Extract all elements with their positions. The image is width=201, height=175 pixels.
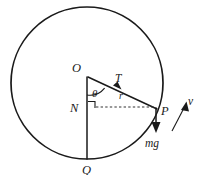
right-angle-marker — [88, 102, 95, 109]
label-center-O: O — [72, 61, 81, 75]
weight-arrowhead — [152, 122, 161, 133]
velocity-shaft — [172, 108, 184, 131]
label-weight-mg: mg — [145, 137, 159, 150]
label-radius-r: r — [119, 90, 123, 101]
velocity-vector — [172, 102, 189, 132]
label-foot-N: N — [69, 101, 79, 115]
diagram-canvas: O N Q P T r θ v mg — [0, 0, 201, 175]
label-tension-T: T — [115, 72, 123, 84]
label-bottom-Q: Q — [82, 163, 91, 175]
label-particle-P: P — [160, 104, 169, 118]
label-velocity-v: v — [188, 95, 194, 107]
physics-diagram-figure: O N Q P T r θ v mg — [0, 0, 201, 175]
label-angle-theta: θ — [92, 87, 98, 99]
